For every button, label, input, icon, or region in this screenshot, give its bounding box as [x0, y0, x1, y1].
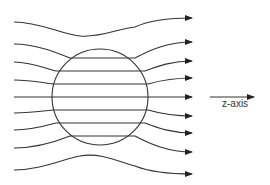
field-line-7 — [14, 123, 192, 133]
field-line-4 — [14, 78, 192, 84]
field-line-9 — [14, 155, 192, 174]
field-diagram — [0, 0, 270, 185]
field-line-3 — [14, 61, 192, 71]
field-line-2 — [14, 42, 192, 58]
field-line-1 — [14, 18, 192, 36]
z-axis-label: z-axis — [222, 98, 248, 109]
field-line-6 — [14, 110, 192, 116]
field-line-8 — [14, 136, 192, 152]
